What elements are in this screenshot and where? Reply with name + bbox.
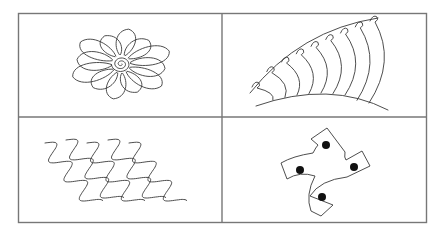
wave-line (129, 142, 187, 201)
waves-panel (45, 139, 187, 201)
pinwheel-dot (318, 193, 326, 201)
wave-line (66, 139, 124, 198)
fan-bottom-curve (256, 94, 388, 110)
wave-line (87, 142, 145, 201)
flower-petal (91, 69, 118, 89)
fan-arc (341, 28, 356, 95)
fan-arc (326, 35, 342, 94)
flower-spiral-center (112, 58, 129, 72)
fan-arc (296, 49, 313, 94)
flower-petal (73, 62, 114, 82)
wave-line (108, 139, 166, 198)
flower-petal (106, 72, 126, 98)
fan-top-curve (250, 18, 378, 93)
fan-arc (369, 16, 384, 103)
flower-petal (128, 46, 169, 66)
loop-fan-panel (250, 16, 388, 110)
fan-arc (355, 22, 370, 100)
pinwheel-panel (281, 128, 370, 216)
fan-arc (252, 82, 273, 100)
pinwheel-dot (322, 141, 330, 149)
fan-arc (282, 57, 300, 95)
fan-arc (311, 41, 327, 93)
pinwheel-dot (296, 166, 304, 174)
diagram-canvas (0, 0, 442, 234)
flower-panel (73, 29, 170, 99)
pinwheel-dot (350, 163, 358, 171)
wave-line (45, 142, 103, 201)
flower-petal (124, 39, 151, 59)
flower-petal (116, 29, 136, 55)
